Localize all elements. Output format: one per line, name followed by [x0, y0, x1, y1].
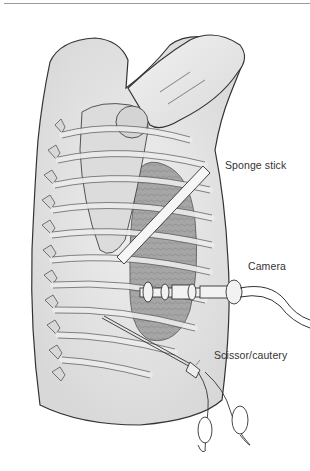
label-sponge-stick: Sponge stick: [225, 159, 286, 171]
thoracoscopy-illustration: [0, 0, 310, 471]
label-scissor-cautery: Scissor/cautery: [214, 349, 287, 361]
label-camera: Camera: [248, 260, 286, 272]
